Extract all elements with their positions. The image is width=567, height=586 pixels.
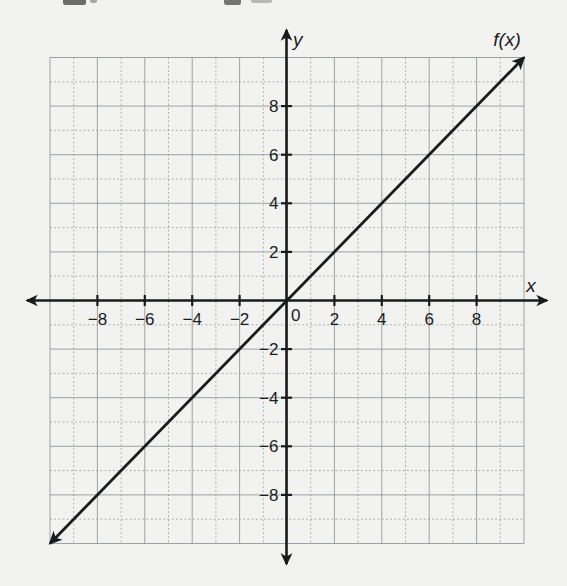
axes [27,30,547,564]
origin-label: 0 [291,306,300,325]
cropped-text-fragment [63,0,86,5]
function-label: f(x) [493,29,520,50]
cropped-text-fragments [63,0,272,5]
x-tick-label: −4 [183,310,202,329]
y-axis-label: y [291,29,304,50]
worksheet-page: −8−6−4−224688642−2−4−6−8 y x f(x) 0 [0,0,567,586]
y-tick-label: 8 [269,97,278,116]
x-tick-label: 4 [377,310,386,329]
y-tick-label: −4 [259,389,278,408]
cropped-text-fragment [224,0,241,5]
cropped-text-fragment [90,0,97,3]
x-tick-label: −8 [88,310,107,329]
y-tick-label: 4 [269,194,278,213]
y-tick-label: 6 [269,146,278,165]
x-tick-label: 8 [472,310,481,329]
x-tick-label: −2 [230,310,249,329]
cropped-text-fragment [251,0,272,3]
x-tick-label: −6 [135,310,154,329]
y-tick-label: 2 [269,243,278,262]
coordinate-plane: −8−6−4−224688642−2−4−6−8 y x f(x) 0 [0,0,567,586]
y-tick-label: −2 [259,340,278,359]
y-tick-label: −6 [259,437,278,456]
x-tick-label: 6 [424,310,433,329]
x-tick-label: 2 [330,310,339,329]
y-tick-label: −8 [259,486,278,505]
x-axis-label: x [525,275,537,296]
